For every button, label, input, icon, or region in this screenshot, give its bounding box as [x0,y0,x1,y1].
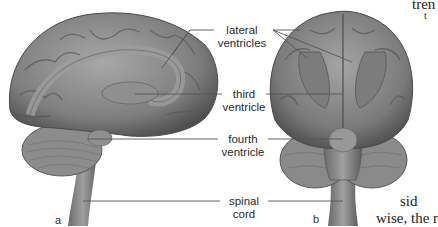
label-line: ventricles [207,37,277,50]
label-line: cord [209,208,279,221]
label-spinal-cord: spinal cord [209,195,279,221]
label-lateral-ventricles: lateral ventricles [207,24,277,50]
label-line: ventricle [209,101,279,114]
panel-a-lateral-brain [9,13,217,226]
label-third-ventricle: third ventricle [209,88,279,114]
label-fourth-ventricle: fourth ventricle [208,133,278,159]
page-text-fragment-top-2: t [424,10,427,21]
panel-letter-b: b [313,213,319,225]
panel-b-posterior-brain [270,11,412,226]
label-line: spinal [209,195,279,208]
label-line: third [209,88,279,101]
panel-letter-a: a [55,214,61,226]
label-line: lateral [207,24,277,37]
page-text-line-2: wise, the r [376,210,438,227]
label-line: ventricle [208,146,278,159]
page-text-line-1: sid [400,193,418,210]
label-line: fourth [208,133,278,146]
